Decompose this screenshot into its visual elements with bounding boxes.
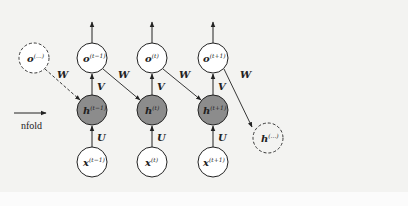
svg-text:W: W bbox=[179, 69, 192, 80]
svg-text:U: U bbox=[97, 132, 107, 143]
footer-strip bbox=[0, 192, 408, 206]
svg-text:W: W bbox=[118, 69, 131, 80]
column-t-minus-1: o(t−1) V h(t−1) U x(t−1) bbox=[77, 22, 107, 177]
svg-text:h(...): h(...) bbox=[261, 132, 279, 144]
svg-text:V: V bbox=[218, 81, 227, 92]
unfold-arrow: nfold bbox=[14, 113, 46, 131]
svg-text:V: V bbox=[97, 81, 106, 92]
svg-text:W: W bbox=[240, 69, 253, 80]
ghost-hidden-node: h(...) bbox=[253, 123, 283, 153]
ghost-output-node: o(...) bbox=[19, 43, 49, 73]
svg-text:U: U bbox=[218, 132, 228, 143]
svg-text:V: V bbox=[157, 81, 166, 92]
rnn-unfolded-diagram: nfold o(...) W o(t−1) V h(t−1) U x(t−1) … bbox=[0, 0, 408, 206]
svg-text:W: W bbox=[57, 69, 70, 80]
column-t: o(t) V h(t) U x(t) bbox=[137, 22, 167, 177]
unfold-label: nfold bbox=[21, 120, 42, 131]
svg-text:U: U bbox=[157, 132, 167, 143]
column-t-plus-1: o(t+1) V h(t+1) U x(t+1) bbox=[198, 22, 228, 177]
